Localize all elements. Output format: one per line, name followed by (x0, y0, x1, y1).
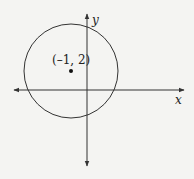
x-axis-label: x (175, 93, 182, 107)
y-axis-label: y (91, 13, 99, 27)
center-label: (–1, 2) (52, 53, 90, 67)
coordinate-diagram: (–1, 2) y x (0, 0, 194, 179)
center-point (69, 69, 73, 73)
